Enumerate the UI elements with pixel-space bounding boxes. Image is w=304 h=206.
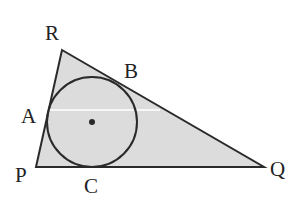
incircle-center-dot [89,119,95,125]
label-r: R [45,21,59,45]
label-a: A [21,104,37,128]
label-c: C [84,174,98,198]
label-p: P [15,163,27,187]
triangle-incircle-diagram: R B A P C Q [0,0,304,206]
label-q: Q [270,157,285,181]
triangle-pqr [36,50,264,167]
label-b: B [124,59,138,83]
